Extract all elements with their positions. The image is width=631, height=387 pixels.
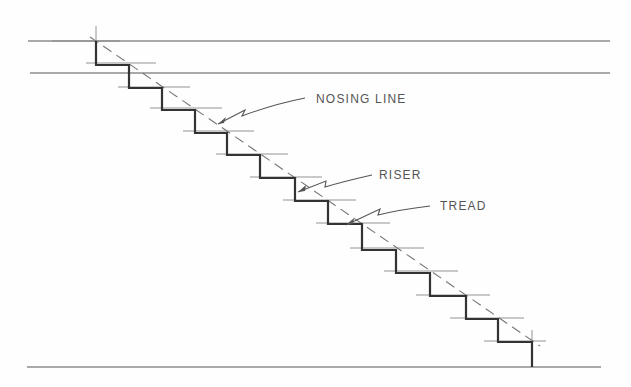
riser-arrowhead-icon (298, 185, 306, 192)
stair-diagram: NOSING LINE RISER TREAD (0, 0, 631, 387)
stair-drawing (0, 0, 631, 387)
nosing-leader (218, 98, 305, 124)
nosing-line (90, 37, 540, 346)
tread-arrowhead-icon (346, 218, 354, 225)
riser-leader (298, 175, 372, 192)
construction-lines (52, 26, 546, 345)
riser-label: RISER (379, 168, 422, 182)
tread-leader (346, 206, 430, 225)
tread-label: TREAD (440, 199, 487, 213)
nosing-line-label: NOSING LINE (316, 92, 407, 106)
leader-arrows (218, 98, 430, 225)
